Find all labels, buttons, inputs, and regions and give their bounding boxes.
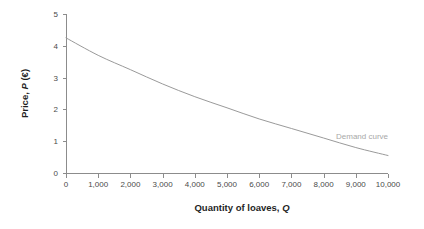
- y-tick-label: 1: [54, 137, 59, 146]
- y-tick-label: 3: [54, 74, 59, 83]
- demand-curve-label: Demand curve: [336, 132, 389, 141]
- y-axis-title-unit: (€): [19, 69, 30, 83]
- demand-curve-chart: 012345 01,0002,0003,0004,0005,0006,0007,…: [0, 0, 424, 229]
- x-tick-label: 10,000: [376, 180, 401, 189]
- y-tick-label: 5: [54, 10, 59, 19]
- x-axis-title: Quantity of loaves, Q: [194, 202, 290, 213]
- x-tick-label: 8,000: [314, 180, 335, 189]
- chart-canvas: 012345 01,0002,0003,0004,0005,0006,0007,…: [0, 0, 424, 229]
- x-tick-label: 5,000: [217, 180, 238, 189]
- y-axis-title: Price, P (€): [19, 69, 30, 118]
- x-axis-title-variable: Q: [282, 202, 290, 213]
- y-axis-ticks: 012345: [54, 10, 67, 178]
- x-tick-label: 1,000: [88, 180, 109, 189]
- y-tick-label: 4: [54, 42, 59, 51]
- y-tick-label: 0: [54, 169, 59, 178]
- chart-annotations: Demand curve: [336, 132, 389, 141]
- x-axis-title-text: Quantity of loaves,: [194, 202, 282, 213]
- x-tick-label: 3,000: [153, 180, 174, 189]
- x-tick-label: 7,000: [281, 180, 302, 189]
- y-tick-label: 2: [54, 105, 59, 114]
- x-tick-label: 0: [64, 180, 69, 189]
- x-tick-label: 4,000: [185, 180, 206, 189]
- x-tick-label: 9,000: [346, 180, 367, 189]
- axes-group: [66, 14, 388, 174]
- x-tick-label: 6,000: [249, 180, 270, 189]
- x-axis-ticks: 01,0002,0003,0004,0005,0006,0007,0008,00…: [64, 174, 401, 190]
- x-tick-label: 2,000: [120, 180, 141, 189]
- y-axis-title-text: Price,: [19, 90, 30, 119]
